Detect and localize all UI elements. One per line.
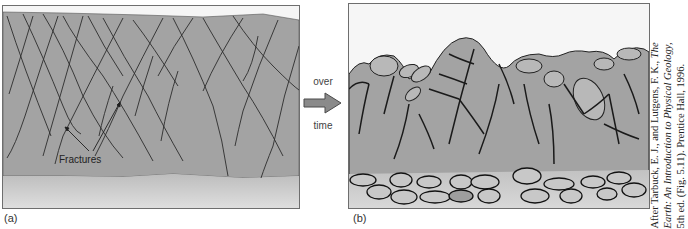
- panel-a-label: (a): [4, 212, 17, 224]
- over-label: over: [303, 76, 343, 87]
- right-arrow-icon: [303, 92, 343, 114]
- panel-b-label: (b): [353, 212, 366, 224]
- time-label: time: [303, 120, 343, 131]
- citation-text: After Tarbuck, E. J., and Lutgens, F. K.…: [648, 0, 688, 229]
- weathered-bedrock-illustration: [349, 4, 649, 208]
- citation-line-3: 5th ed. (Fig. 5.11). Prentice Hall, 1996…: [674, 0, 687, 229]
- panel-a-fractured-bedrock: Fractures: [2, 5, 300, 209]
- fractures-annotation: Fractures: [59, 154, 101, 165]
- citation-line-2: Earth: An Introduction to Physical Geolo…: [661, 0, 674, 229]
- citation-line-1: After Tarbuck, E. J., and Lutgens, F. K.…: [648, 0, 661, 229]
- panel-b-weathered-bedrock: [348, 3, 650, 209]
- fractured-bedrock-illustration: [3, 6, 299, 208]
